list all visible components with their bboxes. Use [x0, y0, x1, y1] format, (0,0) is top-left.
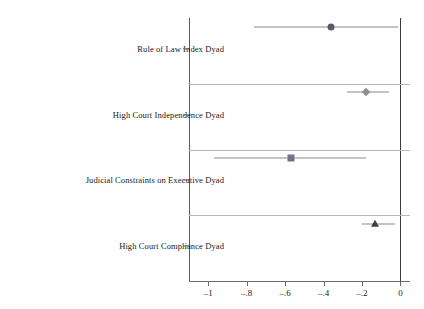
category-label: Judicial Constraints on Executive Dyad	[86, 175, 224, 185]
point-estimate-marker	[362, 88, 370, 96]
gridline	[189, 84, 410, 85]
x-axis-tick	[400, 281, 401, 286]
x-axis-tick-label: 0	[398, 288, 403, 298]
gridline	[189, 150, 410, 151]
point-estimate-marker	[287, 155, 294, 162]
x-axis-tick	[208, 281, 209, 286]
category-label: High Court Compliance Dyad	[119, 241, 224, 251]
confidence-interval-line	[254, 26, 398, 27]
gridline	[189, 215, 410, 216]
x-axis-tick-label: –.2	[356, 288, 367, 298]
category-tick	[183, 48, 189, 49]
x-axis-line	[189, 281, 410, 282]
x-axis-tick	[362, 281, 363, 286]
x-axis-tick	[324, 281, 325, 286]
x-axis-tick-label: –1	[204, 288, 213, 298]
point-estimate-marker	[328, 23, 335, 30]
category-tick	[183, 114, 189, 115]
category-label: High Court Independence Dyad	[113, 110, 224, 120]
x-axis-tick-label: –.6	[279, 288, 290, 298]
x-axis-tick-label: –.8	[241, 288, 252, 298]
point-estimate-marker	[371, 220, 379, 227]
x-axis-tick	[285, 281, 286, 286]
coefficient-plot: Rule of Law Index DyadHigh Court Indepen…	[0, 0, 424, 309]
x-axis-tick	[247, 281, 248, 286]
category-tick	[183, 246, 189, 247]
category-label: Rule of Law Index Dyad	[137, 44, 224, 54]
x-axis-tick-label: –.4	[318, 288, 329, 298]
category-tick	[183, 180, 189, 181]
